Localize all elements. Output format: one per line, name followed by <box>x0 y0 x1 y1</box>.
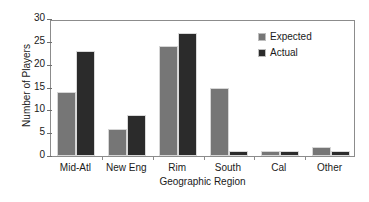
bar-chart: Number of Players 051015202530 Mid-AtlNe… <box>0 0 369 202</box>
bar-actual <box>127 115 146 156</box>
x-tick-mark <box>254 156 255 160</box>
legend-swatch-icon <box>258 33 266 41</box>
legend-swatch-icon <box>258 49 266 57</box>
y-tick-mark <box>47 156 52 157</box>
y-tick-label: 30 <box>15 12 45 24</box>
bar-group <box>312 21 350 156</box>
legend-label: Expected <box>270 31 312 42</box>
y-tick-label: 15 <box>15 81 45 93</box>
bar-expected <box>108 129 127 156</box>
bar-actual <box>229 151 248 156</box>
x-tick-mark <box>305 156 306 160</box>
y-tick-label: 25 <box>15 35 45 47</box>
legend-item: Expected <box>258 31 312 42</box>
y-tick-label: 10 <box>15 103 45 115</box>
legend-label: Actual <box>270 47 298 58</box>
y-tick-label: 20 <box>15 58 45 70</box>
x-tick-mark <box>204 156 205 160</box>
bar-group <box>159 21 197 156</box>
bar-actual <box>76 51 95 156</box>
legend-item: Actual <box>258 47 312 58</box>
bar-expected <box>312 147 331 156</box>
y-tick-label: 0 <box>15 149 45 161</box>
x-tick-mark <box>102 156 103 160</box>
y-tick-label: 5 <box>15 126 45 138</box>
x-tick-label: Other <box>290 162 369 174</box>
bar-actual <box>280 151 299 156</box>
bar-expected <box>210 88 229 157</box>
bar-actual <box>178 33 197 156</box>
bar-group <box>108 21 146 156</box>
x-axis-title: Geographic Region <box>50 176 355 188</box>
bar-group <box>57 21 95 156</box>
bar-expected <box>159 46 178 156</box>
bar-group <box>210 21 248 156</box>
legend: ExpectedActual <box>258 31 312 58</box>
bar-actual <box>331 151 350 156</box>
x-tick-mark <box>153 156 154 160</box>
y-tick-mark <box>47 19 52 20</box>
bar-expected <box>57 92 76 156</box>
bar-expected <box>261 151 280 156</box>
